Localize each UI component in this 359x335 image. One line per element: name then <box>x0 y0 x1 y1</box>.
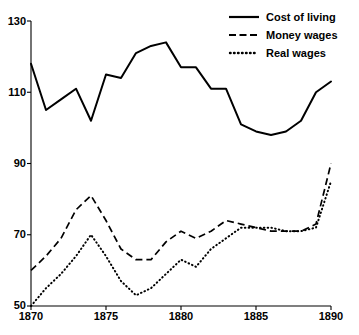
x-tick-label-1875: 1875 <box>89 310 123 322</box>
y-tick-label-90: 90 <box>2 157 26 169</box>
dashed-line-key-icon <box>228 28 260 42</box>
series-real-wages <box>31 181 331 306</box>
chart-legend: Cost of living Money wages Real wages <box>228 8 354 62</box>
x-tick-label-1890: 1890 <box>314 310 348 322</box>
solid-line-key-icon <box>228 10 260 24</box>
legend-item-real-wages: Real wages <box>228 44 354 62</box>
x-tick-label-1885: 1885 <box>239 310 273 322</box>
legend-label-cost-of-living: Cost of living <box>266 10 336 24</box>
y-tick-label-110: 110 <box>2 86 26 98</box>
x-tick-label-1880: 1880 <box>164 310 198 322</box>
legend-item-money-wages: Money wages <box>228 26 354 44</box>
series-money-wages <box>31 164 331 271</box>
y-tick-label-130: 130 <box>2 15 26 27</box>
legend-item-cost-of-living: Cost of living <box>228 8 354 26</box>
y-tick-label-70: 70 <box>2 228 26 240</box>
legend-label-money-wages: Money wages <box>266 28 338 42</box>
legend-label-real-wages: Real wages <box>266 46 326 60</box>
dotted-line-key-icon <box>228 46 260 60</box>
x-tick-label-1870: 1870 <box>14 310 48 322</box>
line-chart: 130 110 90 70 50 1870 1875 1880 1885 189… <box>0 0 359 335</box>
